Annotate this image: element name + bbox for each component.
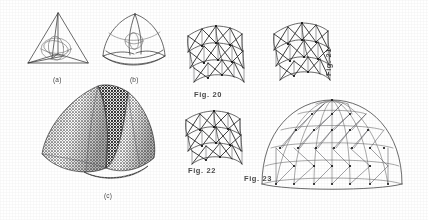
fig-23-caption: Fig. 23 <box>244 174 272 183</box>
figure-b-caption: (b) <box>130 76 139 83</box>
fig-21-caption: Fig. 21 <box>324 48 333 76</box>
fig-22-caption: Fig. 22 <box>188 166 216 175</box>
mesh-tetrahedron-halftone <box>36 84 176 188</box>
figure-c-caption: (c) <box>104 192 112 199</box>
rounded-tetrahedron <box>96 10 174 76</box>
tetrahedron-wireframe <box>18 8 98 76</box>
truss-panel-22 <box>180 108 256 170</box>
fig-20-caption: Fig. 20 <box>194 90 222 99</box>
illustration-plate: (a) (b) <box>0 0 428 220</box>
figure-a-caption: (a) <box>53 76 62 83</box>
truss-panel-20 <box>182 22 258 88</box>
geodesic-dome-23 <box>256 96 408 192</box>
